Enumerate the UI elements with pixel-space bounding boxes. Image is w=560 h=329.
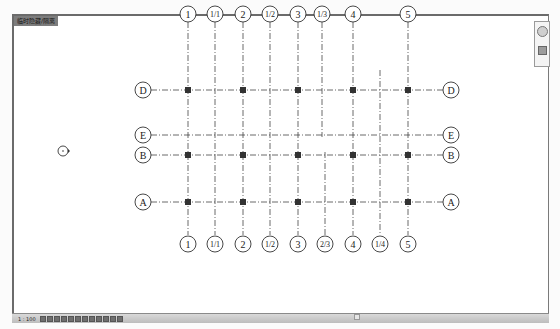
reveal-hidden-icon[interactable] bbox=[89, 316, 95, 322]
view-control-bar: 1 : 100 bbox=[12, 313, 549, 323]
steering-wheel-icon[interactable] bbox=[537, 26, 548, 37]
column-label: 2 bbox=[241, 9, 246, 20]
row-bubbles[interactable] bbox=[135, 82, 459, 210]
temp-hide-icon[interactable] bbox=[82, 316, 88, 322]
sun-path-icon[interactable] bbox=[54, 316, 60, 322]
navigation-bar bbox=[534, 21, 550, 67]
column-label: 2 bbox=[241, 239, 246, 250]
column-label: 4 bbox=[351, 9, 356, 20]
column-label: 1/3 bbox=[317, 10, 327, 19]
row-label: B bbox=[140, 150, 147, 161]
column-label: 1/2 bbox=[265, 240, 275, 249]
analysis-icon[interactable] bbox=[103, 316, 109, 322]
horizontal-scrollbar-thumb[interactable] bbox=[354, 314, 360, 320]
column-labels-bottom: 1 1/1 2 1/2 3 2/3 4 1/4 5 bbox=[186, 239, 411, 250]
highlight-icon[interactable] bbox=[110, 316, 116, 322]
column-label: 3 bbox=[296, 9, 301, 20]
column-label: 1 bbox=[186, 239, 191, 250]
row-label: B bbox=[448, 150, 455, 161]
row-label: A bbox=[139, 197, 147, 208]
crop-view-icon[interactable] bbox=[68, 316, 74, 322]
column-labels-top: 1 1/1 2 1/2 3 1/3 4 5 bbox=[186, 9, 411, 20]
column-label: 5 bbox=[406, 239, 411, 250]
column-label: 4 bbox=[351, 239, 356, 250]
drawing-canvas[interactable]: 1 1/1 2 1/2 3 1/3 4 5 1 1/1 2 1/2 3 2/3 … bbox=[0, 0, 560, 329]
constraints-icon[interactable] bbox=[117, 316, 123, 322]
show-crop-icon[interactable] bbox=[75, 316, 81, 322]
lock-3d-icon[interactable] bbox=[96, 316, 102, 322]
detail-level-icon[interactable] bbox=[40, 316, 46, 322]
row-label: A bbox=[447, 197, 455, 208]
row-label: D bbox=[447, 85, 454, 96]
column-label: 1/2 bbox=[265, 10, 275, 19]
row-label: E bbox=[140, 130, 146, 141]
column-label: 1 bbox=[186, 9, 191, 20]
column-label: 2/3 bbox=[320, 240, 330, 249]
column-label: 3 bbox=[296, 239, 301, 250]
row-label: E bbox=[448, 130, 454, 141]
shadows-icon[interactable] bbox=[61, 316, 67, 322]
elevation-marker-icon[interactable] bbox=[58, 146, 70, 156]
visual-style-icon[interactable] bbox=[47, 316, 53, 322]
row-label: D bbox=[139, 85, 146, 96]
zoom-icon[interactable] bbox=[538, 46, 547, 55]
column-label: 5 bbox=[406, 9, 411, 20]
column-label: 1/1 bbox=[210, 10, 220, 19]
column-label: 1/4 bbox=[375, 240, 385, 249]
column-label: 1/1 bbox=[210, 240, 220, 249]
scale-label[interactable]: 1 : 100 bbox=[12, 316, 40, 322]
